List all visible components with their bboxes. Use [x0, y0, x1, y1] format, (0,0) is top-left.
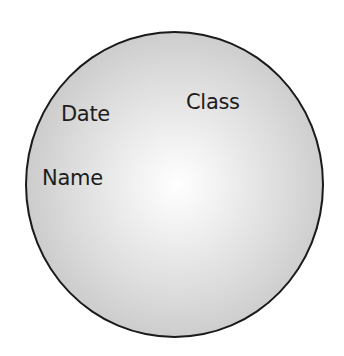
date-label: Date [61, 104, 110, 125]
class-label: Class [186, 92, 240, 113]
name-label: Name [42, 168, 103, 189]
